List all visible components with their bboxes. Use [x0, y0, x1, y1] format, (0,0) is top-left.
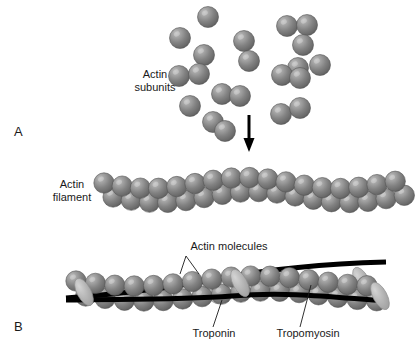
- actin-subunit: [169, 66, 190, 87]
- actin-subunit: [271, 104, 292, 125]
- actin-filament-bead: [294, 175, 314, 195]
- actin-subunit: [212, 84, 233, 105]
- actin-filament-bead: [221, 168, 241, 188]
- actin-subunit: [170, 28, 191, 49]
- actin-filament-bead: [185, 173, 205, 193]
- figure-canvas: A Actin subunits Actin filament: [0, 0, 417, 347]
- actin-molecule-bead: [143, 275, 163, 295]
- actin-filament-bead: [239, 167, 259, 187]
- actin-filament-bead: [94, 173, 114, 193]
- actin-subunits-label-line1: Actin: [143, 68, 167, 80]
- panel-a-letter: A: [14, 124, 23, 139]
- actin-filament-bead: [276, 172, 296, 192]
- actin-molecule-bead: [124, 276, 144, 296]
- actin-molecule-bead: [279, 267, 299, 287]
- actin-molecule-bead: [299, 270, 319, 290]
- actin-filament-bead: [112, 176, 132, 196]
- actin-molecule-bead: [318, 272, 338, 292]
- actin-filament-label-line2: filament: [53, 191, 92, 203]
- troponin-label: Troponin: [192, 327, 235, 339]
- actin-filament-bead: [330, 178, 350, 198]
- actin-subunit: [194, 45, 215, 66]
- actin-filament-bead: [203, 170, 223, 190]
- actin-subunit: [189, 64, 210, 85]
- actin-subunit: [230, 86, 251, 107]
- actin-filament-bead: [167, 176, 187, 196]
- actin-filament-label-line1: Actin: [60, 178, 84, 190]
- actin-filament-bead: [349, 177, 369, 197]
- tropomyosin-label: Tropomyosin: [276, 327, 339, 339]
- actin-figure: A Actin subunits Actin filament: [0, 0, 417, 347]
- actin-subunit: [272, 65, 293, 86]
- actin-filament-bead: [148, 178, 168, 198]
- actin-subunits-label-line2: subunits: [135, 81, 176, 93]
- actin-molecule-bead: [202, 269, 222, 289]
- actin-subunit: [215, 121, 236, 142]
- actin-filament-bead: [130, 178, 150, 198]
- actin-molecule-bead: [105, 275, 125, 295]
- actin-filament-bead: [385, 171, 405, 191]
- actin-filament-bead: [367, 174, 387, 194]
- actin-subunit: [297, 15, 318, 36]
- actin-subunit: [239, 51, 260, 72]
- actin-subunit: [290, 68, 311, 89]
- actin-molecules-label: Actin molecules: [190, 240, 268, 252]
- actin-filament-bead: [312, 177, 332, 197]
- actin-subunit: [290, 98, 311, 119]
- actin-subunit: [277, 16, 298, 37]
- actin-subunit: [234, 31, 255, 52]
- actin-filament-bead: [258, 169, 278, 189]
- actin-subunit: [198, 7, 219, 28]
- actin-subunit: [293, 35, 314, 56]
- actin-molecule-bead: [337, 274, 357, 294]
- panel-b-letter: B: [14, 319, 23, 334]
- actin-subunit: [180, 96, 201, 117]
- actin-molecule-bead: [260, 266, 280, 286]
- actin-molecule-bead: [182, 271, 202, 291]
- actin-molecule-bead: [163, 274, 183, 294]
- actin-subunit: [310, 55, 331, 76]
